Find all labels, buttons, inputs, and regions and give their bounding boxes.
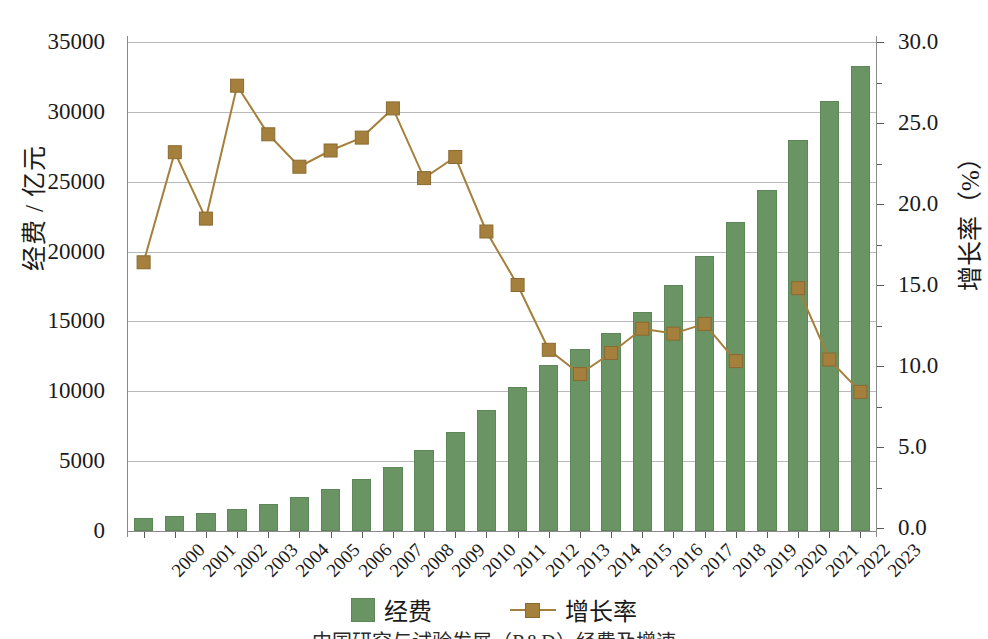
gridline xyxy=(128,112,876,113)
x-axis-tick-mark xyxy=(642,532,643,538)
x-axis-tick-mark xyxy=(705,532,706,538)
x-axis-tick-mark xyxy=(673,532,674,538)
x-axis-tick-mark xyxy=(860,532,861,538)
bar xyxy=(196,513,215,531)
y-axis-right-tick-mark xyxy=(877,204,884,205)
y-axis-right-minor-tick xyxy=(877,488,882,489)
bar xyxy=(570,349,589,531)
x-axis-tick-mark xyxy=(362,532,363,538)
growth-rate-marker xyxy=(542,343,555,356)
bar xyxy=(633,312,652,531)
bar xyxy=(227,509,246,531)
growth-rate-marker xyxy=(262,128,275,141)
x-axis-tick-label: 2011 xyxy=(509,539,551,581)
bar xyxy=(539,365,558,531)
growth-rate-marker xyxy=(480,225,493,238)
figure-caption: 中国研究与试验发展（R&D）经费及增速 xyxy=(0,626,988,639)
y-axis-left-tick-label: 25000 xyxy=(48,170,106,193)
line-marker-icon xyxy=(510,599,556,621)
y-axis-right-tick-mark xyxy=(877,447,884,448)
bar xyxy=(134,518,153,531)
bar xyxy=(757,190,776,531)
bar xyxy=(290,497,309,531)
growth-rate-marker xyxy=(293,160,306,173)
chart-legend: 经费 增长率 xyxy=(0,592,988,627)
axis-line xyxy=(876,36,877,537)
x-axis-tick-mark xyxy=(767,532,768,538)
x-axis-tick-label: 2023 xyxy=(884,539,926,581)
x-axis-tick-mark xyxy=(393,532,394,538)
bar xyxy=(695,256,714,531)
y-axis-right-tick-label: 20.0 xyxy=(898,192,938,215)
y-axis-left-tick-label: 15000 xyxy=(48,309,106,332)
x-axis-tick-mark xyxy=(175,532,176,538)
y-axis-right-minor-tick xyxy=(877,407,882,408)
bar xyxy=(601,333,620,531)
y-axis-right-tick-mark xyxy=(877,366,884,367)
bar xyxy=(477,410,496,531)
bar xyxy=(851,66,870,531)
legend-item-zengzhanglv[interactable]: 增长率 xyxy=(510,592,637,627)
y-axis-right-minor-tick xyxy=(877,245,882,246)
bar xyxy=(446,432,465,531)
y-axis-right-title: 增长率（%） xyxy=(950,108,986,328)
x-axis-tick-mark xyxy=(736,532,737,538)
x-axis-tick-mark xyxy=(829,532,830,538)
y-axis-left-tick-label: 30000 xyxy=(48,100,106,123)
bar xyxy=(414,450,433,531)
growth-rate-marker xyxy=(449,151,462,164)
legend-label-jingfei: 经费 xyxy=(384,592,432,627)
y-axis-right-minor-tick xyxy=(877,164,882,165)
growth-rate-marker xyxy=(511,279,524,292)
x-axis-tick-mark xyxy=(424,532,425,538)
y-axis-left-tick-label: 20000 xyxy=(48,240,106,263)
x-axis-tick-mark xyxy=(611,532,612,538)
gridline xyxy=(128,182,876,183)
bar xyxy=(788,140,807,531)
x-axis-tick-mark xyxy=(549,532,550,538)
x-axis-tick-mark xyxy=(299,532,300,538)
y-axis-right-minor-tick xyxy=(877,83,882,84)
y-axis-left-title: 经费 / 亿元 xyxy=(14,98,50,318)
y-axis-right-tick-label: 10.0 xyxy=(898,354,938,377)
x-axis-tick-mark xyxy=(268,532,269,538)
y-axis-right-tick-mark xyxy=(877,528,884,529)
y-axis-left-tick-label: 5000 xyxy=(59,449,105,472)
bar xyxy=(165,516,184,531)
axis-line xyxy=(128,531,876,532)
y-axis-right-minor-tick xyxy=(877,326,882,327)
legend-label-zengzhanglv: 增长率 xyxy=(565,592,637,627)
x-axis-tick-mark xyxy=(144,532,145,538)
x-axis-tick-mark xyxy=(798,532,799,538)
x-axis-tick-mark xyxy=(455,532,456,538)
y-axis-right-tick-mark xyxy=(877,42,884,43)
x-axis-tick-mark xyxy=(580,532,581,538)
y-axis-right-tick-label: 30.0 xyxy=(898,30,938,53)
y-axis-right-tick-label: 25.0 xyxy=(898,111,938,134)
growth-rate-line xyxy=(144,86,861,392)
x-axis-tick-mark xyxy=(486,532,487,538)
axis-line xyxy=(127,36,128,537)
chart-figure: 经费 / 亿元 增长率（%） 0500010000150002000025000… xyxy=(0,0,988,639)
y-axis-right-tick-label: 15.0 xyxy=(898,273,938,296)
y-axis-right-tick-mark xyxy=(877,123,884,124)
y-axis-right-tick-label: 5.0 xyxy=(898,435,927,458)
bar-swatch-icon xyxy=(351,598,375,622)
bar xyxy=(820,101,839,531)
bar xyxy=(321,489,340,531)
line-series-zengzhanglv xyxy=(0,0,988,639)
x-axis-tick-mark xyxy=(237,532,238,538)
y-axis-right-tick-label: 0.0 xyxy=(898,516,927,539)
y-axis-right-tick-mark xyxy=(877,285,884,286)
gridline xyxy=(128,42,876,43)
growth-rate-marker xyxy=(231,79,244,92)
bar xyxy=(259,504,278,531)
bar xyxy=(726,222,745,531)
y-axis-left-tick-label: 0 xyxy=(94,519,106,542)
x-axis-tick-mark xyxy=(518,532,519,538)
bar xyxy=(383,467,402,531)
bar xyxy=(352,479,371,531)
bar xyxy=(508,387,527,531)
x-axis-tick-mark xyxy=(331,532,332,538)
legend-item-jingfei[interactable]: 经费 xyxy=(351,592,432,627)
